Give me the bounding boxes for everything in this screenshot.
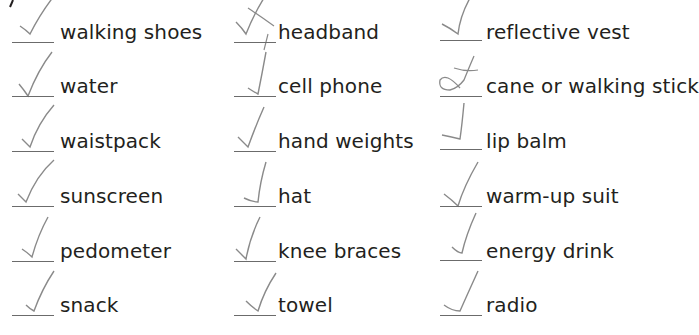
answer-blank[interactable]: [440, 40, 482, 41]
answer-blank[interactable]: [440, 315, 482, 316]
item-label: hand weights: [278, 129, 414, 153]
item-label: sunscreen: [60, 184, 163, 208]
checklist-column-3: reflective vest cane or walking stick li…: [438, 0, 696, 335]
item-label: energy drink: [486, 239, 614, 263]
checklist-column-2: headband cell phone hand weights hat: [232, 0, 437, 335]
check-mark-icon: [10, 205, 66, 265]
checklist-column-1: walking shoes water waistpack sunscreen: [10, 0, 225, 335]
item-label: water: [60, 74, 117, 98]
item-label: lip balm: [486, 129, 567, 153]
checklist-item[interactable]: radio: [438, 273, 696, 327]
item-label: warm-up suit: [486, 184, 619, 208]
check-mark-icon: [10, 259, 66, 319]
item-label: snack: [60, 293, 118, 317]
check-mark-icon: [10, 95, 66, 155]
item-label: knee braces: [278, 239, 401, 263]
checklist-item[interactable]: towel: [232, 273, 437, 327]
item-label: radio: [486, 293, 537, 317]
item-label: walking shoes: [60, 20, 202, 44]
item-label: cane or walking stick: [486, 74, 699, 98]
checklist-item[interactable]: snack: [10, 273, 225, 327]
checklist-item[interactable]: reflective vest: [438, 0, 696, 54]
check-mark-icon: [10, 152, 66, 212]
answer-blank[interactable]: [12, 315, 54, 316]
item-label: pedometer: [60, 239, 171, 263]
check-mark-icon: [10, 40, 66, 100]
item-label: towel: [278, 293, 333, 317]
item-label: reflective vest: [486, 20, 630, 44]
item-label: headband: [278, 20, 379, 44]
item-label: cell phone: [278, 74, 382, 98]
answer-blank[interactable]: [234, 315, 276, 316]
item-label: waistpack: [60, 129, 161, 153]
